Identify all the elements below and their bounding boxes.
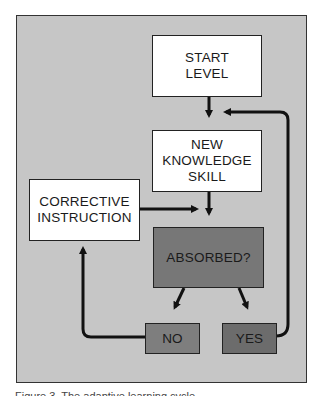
node-label: ABSORBED?	[166, 250, 250, 266]
node-yes: YES	[222, 323, 277, 354]
node-corrective-instruction: CORRECTIVE INSTRUCTION	[29, 179, 140, 241]
node-label: NEW	[191, 137, 223, 153]
node-label: SKILL	[188, 169, 226, 185]
node-label: LEVEL	[185, 66, 228, 82]
node-label: YES	[236, 331, 264, 347]
figure-caption: Figure 3. The adaptive learning cycle	[15, 389, 310, 396]
node-absorbed-decision: ABSORBED?	[153, 227, 264, 288]
node-label: KNOWLEDGE	[162, 153, 252, 169]
node-label: INSTRUCTION	[37, 210, 131, 226]
node-new-knowledge-skill: NEW KNOWLEDGE SKILL	[152, 130, 262, 192]
node-label: CORRECTIVE	[39, 194, 130, 210]
node-start-level: START LEVEL	[152, 35, 262, 97]
node-no: NO	[145, 323, 200, 354]
node-label: NO	[162, 331, 183, 347]
node-label: START	[185, 50, 229, 66]
